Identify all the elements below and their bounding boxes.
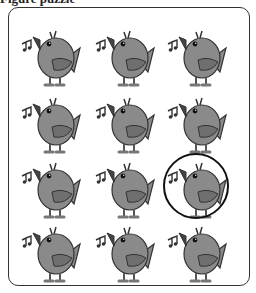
bird-r4-c2[interactable] [92, 216, 156, 284]
bird-r3-c2[interactable] [92, 152, 156, 220]
bird-r1-c1[interactable] [18, 20, 82, 88]
bird-r2-c1[interactable] [18, 87, 82, 155]
bird-r4-c3[interactable] [164, 216, 228, 284]
bird-r2-c2[interactable] [92, 87, 156, 155]
bird-r4-c1[interactable] [18, 216, 82, 284]
bird-r1-c3[interactable] [164, 20, 228, 88]
bird-r1-c2[interactable] [92, 20, 156, 88]
bird-r2-c3[interactable] [164, 87, 228, 155]
bird-r3-c1[interactable] [18, 152, 82, 220]
worksheet-caption: Figure puzzle [0, 0, 75, 7]
highlight-circle [163, 153, 229, 219]
